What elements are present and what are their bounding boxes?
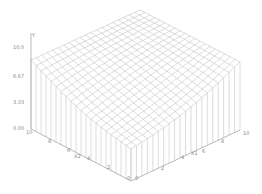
x2-tick-6: 6 [67,147,70,153]
x1-tick-8: 8 [221,138,224,144]
x2-tick-8: 8 [48,138,51,144]
surface-side-walls [31,60,240,181]
x1-axis-title: X1 [191,150,198,156]
x2-tick-4: 4 [87,155,90,161]
y-tick-3.33: 3.33 [13,99,24,105]
x1-tick-0: 0 [135,175,138,181]
x2-tick-2: 2 [107,164,110,170]
x2-axis-title: X2 [74,153,81,159]
y-tick-10: 10.0 [13,44,24,50]
x2-tick-0: 0 [127,175,130,181]
axes [31,33,240,181]
x2-tick-10: 10 [26,129,32,135]
y-tick-0: 0.00 [13,125,24,131]
x1-tick-10: 10 [243,130,249,136]
y-tick-6.67: 6.67 [13,73,24,79]
surface-mesh [31,10,240,149]
x1-tick-6: 6 [202,148,205,154]
y-axis-title: Y [31,32,36,38]
x1-tick-4: 4 [181,154,184,160]
x1-tick-2: 2 [161,165,164,171]
surface-plot: Y 10.0 6.67 3.33 0.00 10 8 6 X2 4 2 0 0 … [0,0,262,194]
